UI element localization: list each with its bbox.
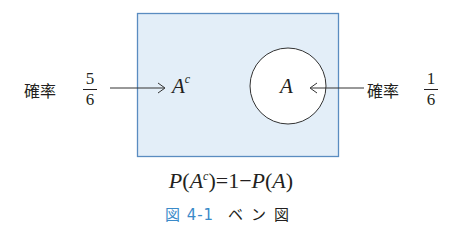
figure-number: 図 4-1	[165, 206, 214, 224]
figure-caption: 図 4-1ベン図	[0, 203, 462, 224]
left-denominator: 6	[86, 91, 95, 108]
formula-p1: P	[169, 168, 182, 193]
formula-a1: A	[190, 168, 203, 193]
formula-paren: )	[208, 168, 215, 193]
left-probability-label: 確率	[24, 78, 56, 102]
complement-letter: A	[172, 74, 185, 98]
right-probability-label: 確率	[367, 78, 399, 102]
formula-paren: )	[286, 168, 293, 193]
formula-p2: P	[252, 168, 265, 193]
complement-label: Ac	[172, 74, 190, 99]
formula-eq: =1−	[216, 168, 252, 193]
set-a-label: A	[280, 74, 293, 99]
figure-title: ベン図	[228, 206, 297, 224]
complement-formula: P(Ac)=1−P(A)	[0, 168, 462, 194]
formula-paren: (	[182, 168, 189, 193]
left-fraction: 5 6	[83, 70, 97, 108]
right-numerator: 1	[427, 70, 436, 87]
left-numerator: 5	[86, 70, 95, 87]
right-fraction: 1 6	[424, 70, 438, 108]
complement-sup: c	[185, 72, 190, 86]
right-denominator: 6	[427, 91, 436, 108]
formula-a2: A	[272, 168, 285, 193]
